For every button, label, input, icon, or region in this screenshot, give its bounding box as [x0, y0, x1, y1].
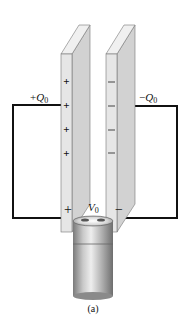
negative-plate: [106, 25, 135, 232]
plus-charge-mark: +: [63, 99, 69, 111]
capacitor-circuit-diagram: + + + + +Q0 −Q0 + − V0 (a): [0, 0, 190, 316]
negative-plate-side: [117, 25, 135, 232]
battery-bottom: [73, 292, 113, 300]
circuit-wires: [13, 105, 177, 218]
plus-charge-mark: +: [63, 75, 69, 87]
positive-charge-label: +Q0: [30, 91, 48, 105]
plus-charge-mark: +: [63, 147, 69, 159]
battery: [73, 216, 113, 300]
battery-negative-label: −: [115, 202, 123, 217]
negative-charge-label: −Q0: [139, 91, 157, 105]
battery-voltage-label: V0: [88, 201, 99, 215]
battery-terminal-right: [97, 218, 105, 221]
battery-body: [73, 221, 113, 296]
battery-top: [73, 216, 113, 226]
battery-terminal-left: [81, 218, 89, 221]
battery-positive-label: +: [64, 202, 72, 217]
plus-charge-mark: +: [63, 123, 69, 135]
figure-caption: (a): [87, 303, 98, 315]
